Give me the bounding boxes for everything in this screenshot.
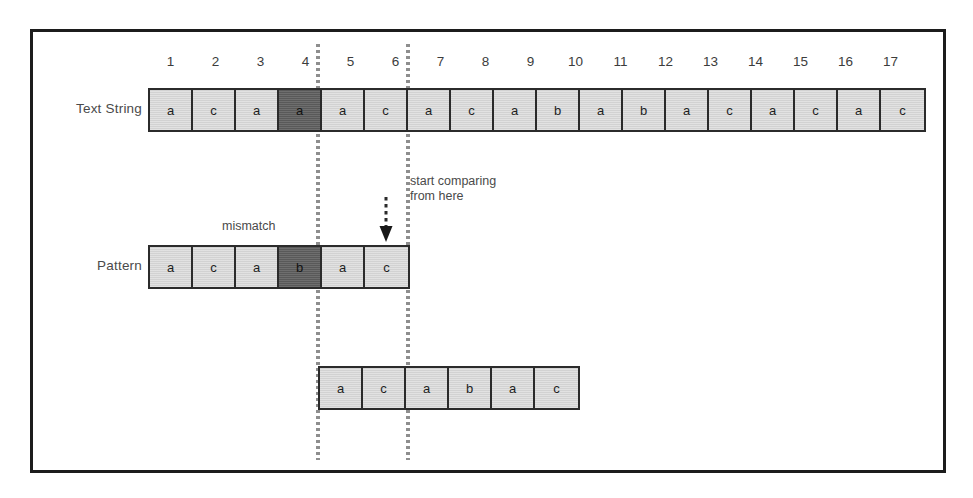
text-string-cell: b (623, 90, 666, 130)
down-arrow-icon (378, 196, 394, 244)
index-number: 10 (553, 52, 598, 72)
text-string-cell: a (838, 90, 881, 130)
index-number: 11 (598, 52, 643, 72)
text-string-cell: a (666, 90, 709, 130)
text-string-cell: c (709, 90, 752, 130)
row-label-pattern: Pattern (38, 258, 142, 273)
text-string-cell: a (322, 90, 365, 130)
index-number: 4 (283, 52, 328, 72)
shifted-pattern-cell: b (449, 368, 492, 408)
shifted-pattern-cell: a (406, 368, 449, 408)
index-number: 15 (778, 52, 823, 72)
text-string-cell: b (537, 90, 580, 130)
text-string-cell: a (236, 90, 279, 130)
text-string-cell: a (752, 90, 795, 130)
shifted-pattern-cell: a (320, 368, 363, 408)
annotation-mismatch: mismatch (222, 219, 275, 234)
pattern-cell: c (365, 247, 408, 287)
index-number: 7 (418, 52, 463, 72)
pattern-cell: b (279, 247, 322, 287)
index-number: 6 (373, 52, 418, 72)
index-number: 13 (688, 52, 733, 72)
index-ruler: 1234567891011121314151617 (148, 52, 913, 72)
shifted-pattern-cell: c (363, 368, 406, 408)
text-string-cell: c (795, 90, 838, 130)
row-label-text-string: Text String (38, 101, 142, 116)
text-string-cell: a (580, 90, 623, 130)
index-number: 16 (823, 52, 868, 72)
index-number: 8 (463, 52, 508, 72)
text-string-cell: a (279, 90, 322, 130)
pattern-cell: a (236, 247, 279, 287)
index-number: 9 (508, 52, 553, 72)
index-number: 12 (643, 52, 688, 72)
index-number: 14 (733, 52, 778, 72)
shifted-pattern-cell: c (535, 368, 578, 408)
text-string-cell: c (365, 90, 408, 130)
shifted-pattern-row: acabac (318, 366, 580, 410)
index-number: 1 (148, 52, 193, 72)
pattern-cell: a (150, 247, 193, 287)
text-string-cell: c (193, 90, 236, 130)
shifted-pattern-cell: a (492, 368, 535, 408)
index-number: 17 (868, 52, 913, 72)
text-string-cell: a (494, 90, 537, 130)
diagram-canvas: 1234567891011121314151617 Text String Pa… (0, 0, 973, 498)
text-string-cell: c (451, 90, 494, 130)
index-number: 5 (328, 52, 373, 72)
pattern-cell: c (193, 247, 236, 287)
text-string-cell: a (150, 90, 193, 130)
text-string-cell: c (881, 90, 924, 130)
annotation-start-comparing: start comparing from here (410, 174, 496, 204)
text-string-row: acaaacacababacacac (148, 88, 926, 132)
pattern-row: acabac (148, 245, 410, 289)
index-number: 2 (193, 52, 238, 72)
index-number: 3 (238, 52, 283, 72)
pattern-cell: a (322, 247, 365, 287)
text-string-cell: a (408, 90, 451, 130)
